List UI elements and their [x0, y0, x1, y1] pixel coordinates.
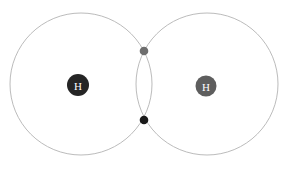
diagram-canvas: H H: [0, 0, 287, 169]
right-hydrogen-label: H: [202, 81, 210, 93]
shared-electron-bottom: [140, 116, 149, 125]
shared-electron-top: [140, 47, 149, 56]
left-hydrogen-label: H: [74, 80, 82, 92]
h2-covalent-bond-diagram: H H: [0, 0, 287, 169]
